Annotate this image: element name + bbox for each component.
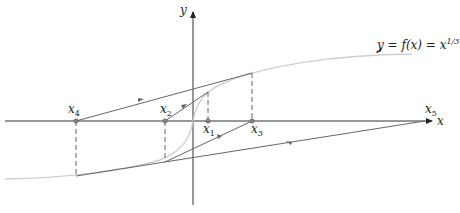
- y-axis-label: y: [179, 3, 187, 17]
- point-x2: [163, 119, 167, 123]
- arrow-2-icon: [217, 134, 222, 139]
- cube-root-curve: [5, 54, 412, 179]
- arrow-3-icon: [138, 98, 144, 102]
- label-x2: x2: [160, 102, 172, 118]
- x-axis-label: x: [437, 114, 444, 128]
- label-x3: x3: [251, 122, 263, 138]
- label-x4: x4: [68, 102, 80, 118]
- label-x5: x5: [425, 102, 437, 118]
- newton-method-diagram: x y x4 x2 x1 x3 x5 y = f(x) = x1/3: [0, 0, 460, 213]
- label-x1: x1: [203, 122, 215, 138]
- curve-label: y = f(x) = x1/3: [376, 37, 459, 52]
- point-x4: [74, 119, 78, 123]
